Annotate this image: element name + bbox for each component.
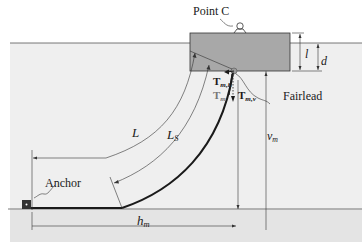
- d-label: d: [321, 55, 327, 67]
- mooring-diagram: Point C l d Tm,h Tm Tm,v Fairlead L LS v…: [0, 0, 362, 251]
- Ls-label: LS: [167, 128, 178, 143]
- l-label: l: [305, 48, 308, 60]
- L-label: L: [132, 126, 139, 139]
- fairlead-label: Fairlead: [283, 90, 322, 102]
- point-c-support-icon: [234, 29, 246, 33]
- vm-label: vm: [267, 130, 278, 144]
- anchor-label: Anchor: [45, 177, 81, 189]
- t-m-label: Tm: [213, 90, 226, 103]
- hm-label: hm: [137, 214, 150, 229]
- diagram-canvas: [0, 0, 362, 251]
- point-c-marker: [237, 23, 243, 29]
- floating-platform: [190, 33, 290, 71]
- t-mv-label: Tm,v: [238, 90, 256, 103]
- t-mh-label: Tm,h: [213, 76, 232, 89]
- point-c-label: Point C: [193, 5, 229, 17]
- point-c-leader: [220, 19, 233, 26]
